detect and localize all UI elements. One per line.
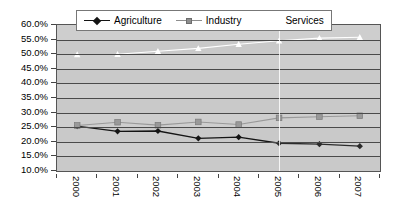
y-axis-tick-label: 35.0%: [21, 92, 48, 102]
y-axis-tick-label: 45.0%: [21, 63, 48, 73]
x-axis-tick-mark: [137, 174, 138, 178]
y-axis: 60.0%55.0%50.0%45.0%40.0%35.0%30.0%25.0%…: [0, 24, 52, 172]
plot-band: [57, 142, 380, 157]
x-axis-tick-label: 2000: [71, 176, 82, 197]
plot-area: [56, 24, 381, 172]
gridline: [57, 69, 380, 70]
x-axis-tick-mark: [379, 174, 380, 178]
legend-square-icon: [176, 16, 202, 26]
y-axis-tick-label: 55.0%: [21, 34, 48, 44]
gridline: [57, 98, 380, 99]
data-point-agriculture: [236, 134, 242, 140]
data-point-agriculture: [195, 135, 201, 141]
gridline: [57, 127, 380, 128]
y-axis-tick-label: 10.0%: [21, 165, 48, 175]
gridline: [57, 142, 380, 143]
x-axis-tick-label: 2006: [313, 176, 324, 197]
legend-marker-diamond: [93, 16, 101, 24]
legend-triangle-icon: [255, 16, 281, 26]
legend-marker-square: [186, 18, 192, 24]
legend-diamond-icon: [84, 16, 110, 26]
gridline: [57, 156, 380, 157]
data-point-agriculture: [155, 128, 161, 134]
line-chart: 60.0%55.0%50.0%45.0%40.0%35.0%30.0%25.0%…: [0, 0, 397, 215]
gridline: [57, 54, 380, 55]
x-axis-tick-mark: [258, 174, 259, 178]
gridline: [57, 113, 380, 114]
x-axis-tick-mark: [339, 174, 340, 178]
vertical-guide: [279, 25, 280, 171]
legend-item-industry[interactable]: Industry: [176, 15, 242, 26]
y-axis-tick-label: 25.0%: [21, 121, 48, 131]
x-axis-tick-mark: [177, 174, 178, 178]
x-axis: 20002001200220032004200520062007: [56, 174, 381, 215]
legend-label: Services: [285, 15, 323, 26]
y-axis-tick-label: 50.0%: [21, 48, 48, 58]
chart-legend: AgricultureIndustryServices: [76, 10, 332, 31]
plot-band: [57, 54, 380, 69]
x-axis-tick-label: 2005: [273, 176, 284, 197]
x-axis-tick-mark: [218, 174, 219, 178]
legend-label: Industry: [206, 15, 242, 26]
x-axis-tick-label: 2001: [111, 176, 122, 197]
x-axis-tick-mark: [56, 174, 57, 178]
gridline: [57, 83, 380, 84]
legend-marker-triangle: [265, 18, 271, 24]
legend-item-services[interactable]: Services: [255, 15, 323, 26]
plot-band: [57, 83, 380, 98]
gridline: [57, 40, 380, 41]
x-axis-tick-label: 2003: [192, 176, 203, 197]
y-axis-tick-label: 30.0%: [21, 107, 48, 117]
y-axis-tick-label: 15.0%: [21, 150, 48, 160]
y-axis-tick-label: 60.0%: [21, 19, 48, 29]
x-axis-tick-mark: [96, 174, 97, 178]
legend-item-agriculture[interactable]: Agriculture: [84, 15, 162, 26]
y-axis-tick-label: 20.0%: [21, 136, 48, 146]
x-axis-tick-label: 2007: [353, 176, 364, 197]
x-axis-tick-label: 2004: [232, 176, 243, 197]
x-axis-tick-mark: [298, 174, 299, 178]
x-axis-tick-label: 2002: [151, 176, 162, 197]
y-axis-tick-label: 40.0%: [21, 77, 48, 87]
plot-band: [57, 113, 380, 128]
legend-label: Agriculture: [114, 15, 162, 26]
data-point-agriculture: [114, 128, 120, 134]
